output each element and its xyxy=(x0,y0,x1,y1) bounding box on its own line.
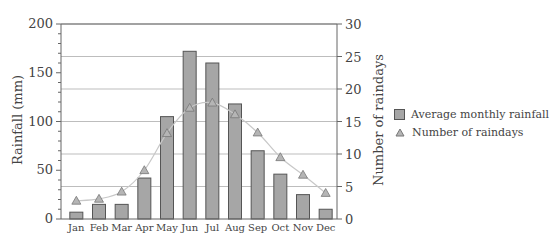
y2-tick-label: 20 xyxy=(345,82,362,97)
bar-swatch-icon xyxy=(394,109,405,120)
x-tick-label: Sep xyxy=(248,222,267,233)
bar-jun xyxy=(183,51,196,219)
bar-sep xyxy=(251,151,264,219)
bar-jul xyxy=(206,63,219,219)
y-tick-label: 200 xyxy=(28,16,53,31)
legend-label: Number of raindays xyxy=(412,126,524,139)
x-tick-label: Nov xyxy=(293,222,314,233)
bar-apr xyxy=(138,178,151,219)
x-tick-label: Mar xyxy=(111,222,132,233)
gridlines xyxy=(61,24,337,187)
x-tick-label: Oct xyxy=(271,222,289,233)
y2-axis-title: Number of raindays xyxy=(371,54,386,186)
y2-tick-label: 30 xyxy=(345,17,362,32)
bar-mar xyxy=(115,204,128,219)
y-axis-title: Rainfall (mm) xyxy=(10,75,25,165)
x-tick-label: Jul xyxy=(205,222,220,233)
x-tick-label: Feb xyxy=(90,222,109,233)
y-tick-label: 50 xyxy=(36,162,53,177)
triangle-marker-nov xyxy=(299,170,308,178)
y2-tick-label: 25 xyxy=(345,50,362,65)
triangle-marker-mar xyxy=(117,187,126,195)
y-tick-label: 150 xyxy=(28,65,53,80)
y2-tick-label: 10 xyxy=(345,147,362,162)
legend-label: Average monthly rainfall xyxy=(411,108,549,121)
legend-item-rainfall: Average monthly rainfall xyxy=(394,105,549,123)
rainfall-bars xyxy=(70,51,332,219)
y-tick-label: 0 xyxy=(45,211,53,226)
triangle-marker-dec xyxy=(321,189,330,197)
triangle-marker-apr xyxy=(140,166,149,174)
x-tick-label: Jun xyxy=(180,222,198,233)
triangle-icon xyxy=(394,127,406,138)
x-tick-label: Dec xyxy=(316,222,336,233)
bar-jan xyxy=(70,212,83,219)
y2-tick-label: 0 xyxy=(345,212,353,227)
x-tick-label: Jan xyxy=(67,222,85,233)
y2-tick-label: 15 xyxy=(345,115,362,130)
bar-oct xyxy=(274,174,287,219)
bar-dec xyxy=(319,209,332,219)
legend-item-raindays: Number of raindays xyxy=(394,123,549,141)
y2-tick-label: 5 xyxy=(345,180,353,195)
legend: Average monthly rainfall Number of raind… xyxy=(394,105,549,141)
x-tick-label: Aug xyxy=(224,222,246,233)
bar-nov xyxy=(297,195,310,219)
y-tick-label: 100 xyxy=(28,114,53,129)
x-tick-label: May xyxy=(156,222,178,233)
bar-feb xyxy=(93,204,106,219)
raindays-line xyxy=(72,98,330,204)
bar-aug xyxy=(229,104,242,219)
x-tick-label: Apr xyxy=(134,222,154,233)
